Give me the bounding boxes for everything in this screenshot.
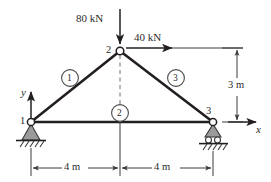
dimension-right-label: 4 m <box>154 162 170 173</box>
pin-support-joint-1 <box>16 124 46 147</box>
x-axis-label: x <box>256 124 261 135</box>
member-1-label: 1 <box>67 74 72 84</box>
joint-2-pin <box>116 47 124 55</box>
truss-figure: 80 kN 40 kN 1 2 3 1 2 3 4 m 4 m 3 m y x <box>0 0 271 182</box>
dimension-left-label: 4 m <box>64 162 80 173</box>
joint-1-label: 1 <box>20 116 25 127</box>
joint-3-label: 3 <box>206 106 211 117</box>
roller-wheel-left <box>206 137 212 143</box>
dimension-span-group <box>31 148 213 176</box>
joint-1-pin <box>27 118 34 125</box>
member-3-label: 3 <box>173 74 178 84</box>
member-3-line <box>120 51 213 122</box>
load-80-label: 80 kN <box>76 13 103 24</box>
member-2-label: 2 <box>117 109 122 119</box>
load-40-label: 40 kN <box>134 32 161 43</box>
ground-hatch-joint-3 <box>203 144 227 150</box>
truss-diagram-canvas <box>0 0 271 182</box>
y-axis-label: y <box>21 87 26 98</box>
dimension-height-label: 3 m <box>228 80 244 91</box>
roller-support-joint-3 <box>199 124 228 150</box>
joint-3-pin <box>209 118 216 125</box>
ground-hatch-joint-1 <box>20 141 44 147</box>
roller-wheel-right <box>215 137 221 143</box>
member-1-line <box>31 51 120 122</box>
joint-2-label: 2 <box>106 45 111 56</box>
member-label-bubbles <box>62 70 185 122</box>
